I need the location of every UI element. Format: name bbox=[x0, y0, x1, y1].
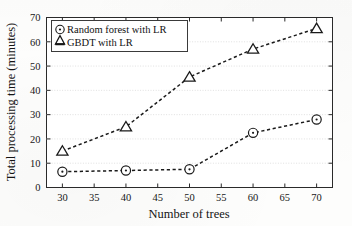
data-point-circle-dot-marker bbox=[185, 165, 194, 174]
circle-dot-marker-icon bbox=[56, 25, 64, 33]
x-tick-label: 65 bbox=[280, 192, 291, 203]
x-tick-label: 40 bbox=[121, 192, 132, 203]
y-tick-label: 30 bbox=[30, 109, 41, 120]
y-tick-label: 40 bbox=[30, 85, 41, 96]
x-tick-label: 45 bbox=[152, 192, 163, 203]
x-axis-title: Number of trees bbox=[148, 207, 229, 221]
data-point-circle-dot-marker bbox=[248, 128, 257, 137]
data-point-circle-dot-marker bbox=[121, 166, 130, 175]
x-tick-label: 70 bbox=[311, 192, 322, 203]
legend: Random forest with LR GBDT with LR bbox=[52, 21, 188, 52]
x-tick-label: 55 bbox=[216, 192, 227, 203]
y-axis-title: Total processing time (minutes) bbox=[4, 23, 18, 181]
chart-svg: 303540455055606570 010203040506070 Numbe… bbox=[0, 0, 352, 226]
y-tick-label: 20 bbox=[30, 134, 41, 145]
legend-entry-gbdt: GBDT with LR bbox=[55, 36, 132, 48]
x-tick-label: 60 bbox=[248, 192, 259, 203]
legend-entry-random-forest: Random forest with LR bbox=[56, 24, 167, 35]
legend-label-random-forest: Random forest with LR bbox=[67, 24, 166, 35]
figure-canvas: 303540455055606570 010203040506070 Numbe… bbox=[0, 0, 352, 226]
y-tick-label: 60 bbox=[30, 37, 41, 48]
data-point-circle-dot-marker bbox=[312, 115, 321, 124]
y-tick-label: 0 bbox=[35, 182, 40, 193]
data-point-circle-dot-marker bbox=[58, 167, 67, 176]
y-tick-label: 10 bbox=[30, 158, 41, 169]
x-tick-label: 50 bbox=[184, 192, 195, 203]
x-tick-label: 30 bbox=[57, 192, 68, 203]
legend-label-gbdt: GBDT with LR bbox=[67, 37, 133, 48]
y-tick-label: 50 bbox=[30, 61, 41, 72]
x-tick-label: 35 bbox=[89, 192, 100, 203]
y-tick-label: 70 bbox=[30, 12, 41, 23]
